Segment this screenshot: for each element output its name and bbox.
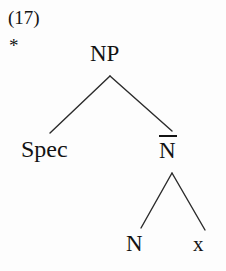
tree-node-n: N — [126, 232, 143, 255]
branch-nbar-to-n — [141, 173, 172, 228]
overbar-icon — [159, 135, 177, 137]
branch-nbar-to-x — [172, 173, 205, 230]
tree-node-spec: Spec — [21, 137, 68, 161]
grammaticality-star: * — [9, 36, 19, 55]
tree-node-x: x — [193, 234, 204, 255]
branch-np-to-nbar — [110, 76, 172, 131]
example-number: (17) — [8, 8, 40, 27]
tree-node-np: NP — [90, 42, 119, 65]
syntax-tree-figure: (17) * NP Spec N N x — [0, 0, 226, 271]
tree-node-n-bar-label: N — [159, 133, 176, 162]
tree-node-n-bar: N — [159, 133, 176, 162]
branch-np-to-spec — [50, 76, 110, 133]
n-bar-glyph: N — [159, 133, 176, 162]
